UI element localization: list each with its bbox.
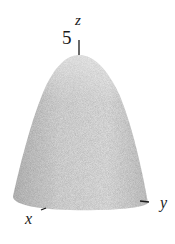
z-intercept-label: 5 bbox=[62, 28, 72, 47]
x-axis-line bbox=[41, 208, 46, 210]
paraboloid-figure: 5 z x y bbox=[0, 0, 175, 244]
paraboloid-diagram bbox=[0, 0, 175, 244]
y-axis-label: y bbox=[160, 195, 167, 211]
x-axis-label: x bbox=[25, 211, 32, 227]
z-axis-label: z bbox=[75, 13, 81, 28]
